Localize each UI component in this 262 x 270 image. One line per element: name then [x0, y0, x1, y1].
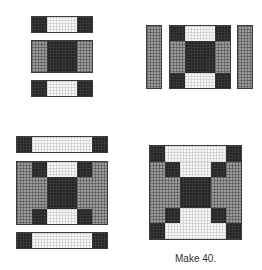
dark-center [180, 177, 211, 208]
light-rectangle [185, 73, 215, 88]
dark-square [92, 233, 107, 248]
step2-center-unit [169, 25, 231, 89]
light-rectangle [32, 233, 92, 248]
dark-square [211, 162, 226, 177]
finished-block [149, 145, 242, 240]
light-rectangle [165, 146, 226, 162]
dark-square [32, 17, 47, 32]
medium-rectangle [170, 41, 185, 73]
step1-bottom-strip [31, 80, 93, 97]
dark-square [226, 146, 241, 162]
step3-middle-unit [16, 161, 108, 225]
light-rectangle [180, 162, 211, 177]
dark-square [77, 17, 92, 32]
dark-square [150, 223, 165, 239]
medium-rectangle [215, 41, 230, 73]
medium-rectangle [77, 177, 92, 209]
medium-side-bar [150, 162, 165, 223]
light-rectangle [47, 17, 77, 32]
dark-center [47, 177, 77, 209]
dark-square [77, 162, 92, 177]
step2-left-bar [146, 25, 162, 89]
light-rectangle [47, 209, 77, 224]
medium-rectangle [211, 177, 226, 208]
dark-square [77, 209, 92, 224]
dark-square [215, 26, 230, 41]
step3-top-strip [16, 136, 108, 153]
light-rectangle [32, 137, 92, 152]
light-rectangle [47, 162, 77, 177]
dark-center [47, 41, 77, 72]
step1-top-strip [31, 16, 93, 33]
dark-square [17, 233, 32, 248]
light-rectangle [165, 223, 226, 239]
dark-square [165, 162, 180, 177]
dark-square [77, 81, 92, 96]
dark-square [92, 137, 107, 152]
dark-square [32, 209, 47, 224]
step2-right-bar [237, 25, 253, 89]
step1-middle-row [31, 40, 93, 73]
dark-square [215, 73, 230, 88]
medium-rectangle [165, 177, 180, 208]
dark-square [32, 81, 47, 96]
medium-rectangle [32, 177, 47, 209]
medium-side-bar [17, 162, 32, 224]
light-rectangle [180, 208, 211, 223]
medium-rectangle [77, 41, 92, 72]
light-rectangle [47, 81, 77, 96]
medium-rectangle [32, 41, 47, 72]
dark-square [165, 208, 180, 223]
dark-square [32, 162, 47, 177]
dark-square [226, 223, 241, 239]
dark-square [170, 26, 185, 41]
dark-square [211, 208, 226, 223]
step3-bottom-strip [16, 232, 108, 249]
dark-square [17, 137, 32, 152]
medium-side-bar [226, 162, 241, 223]
light-rectangle [185, 26, 215, 41]
make-count-caption: Make 40. [175, 253, 216, 264]
dark-square [170, 73, 185, 88]
dark-center [185, 41, 215, 73]
medium-side-bar [92, 162, 107, 224]
dark-square [150, 146, 165, 162]
